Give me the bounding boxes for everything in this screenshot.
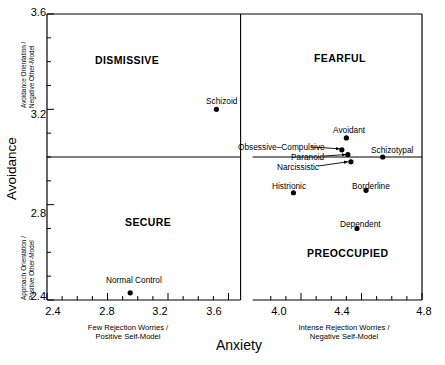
quadrant-label-secure: SECURE — [125, 216, 171, 228]
point-label-obsessive-compulsive: Obsessive–Compulsive — [238, 142, 325, 152]
y-axis-top-caption: Avoidance Orientation / Negative Other-M… — [20, 3, 35, 108]
y-axis-bottom-caption: Approach Orientation / Positive Other-Mo… — [20, 195, 35, 300]
point-label-histrionic: Histrionic — [272, 181, 306, 191]
y-tick-3.2: 3.2 — [20, 108, 46, 120]
data-point-normal-control — [128, 290, 133, 295]
x-axis-left-caption-line1: Few Rejection Worries / — [68, 323, 188, 332]
x-axis-right-caption: Intense Rejection Worries / Negative Sel… — [281, 323, 407, 342]
quadrant-label-preoccupied: PREOCCUPIED — [307, 247, 388, 259]
x-tick-2.4: 2.4 — [36, 305, 70, 317]
x-tick-3.2: 3.2 — [143, 305, 177, 317]
x-axis-title: Anxiety — [216, 337, 262, 353]
data-point-avoidant — [344, 135, 349, 140]
y-axis-bottom-caption-line1: Approach Orientation / — [20, 195, 28, 300]
data-point-narcissistic — [348, 159, 353, 164]
point-label-schizoid: Schizoid — [206, 96, 237, 106]
point-label-schizotypal: Schizotypal — [371, 145, 413, 155]
data-point-schizotypal — [380, 154, 385, 159]
y-axis-top-caption-line2: Negative Other-Model — [28, 3, 36, 108]
x-tick-4.0: 4.0 — [262, 305, 296, 317]
x-tick-2.8: 2.8 — [90, 305, 124, 317]
leader-line-paranoid-arrowhead — [342, 153, 346, 156]
y-axis-title: Avoidance — [4, 137, 19, 200]
point-label-avoidant: Avoidant — [333, 125, 365, 135]
point-label-dependent: Dependent — [340, 219, 381, 229]
data-point-obsessive-compulsive — [339, 147, 344, 152]
x-tick-4.4: 4.4 — [325, 305, 359, 317]
y-axis-bottom-caption-line2: Positive Other-Model — [28, 195, 36, 300]
y-axis-top-caption-line1: Avoidance Orientation / — [20, 3, 28, 108]
x-axis-left-caption-line2: Positive Self-Model — [68, 332, 188, 341]
x-axis-right-caption-line1: Intense Rejection Worries / — [281, 323, 407, 332]
point-label-normal-control: Normal Control — [106, 275, 162, 285]
point-label-narcissistic: Narcissistic — [277, 162, 319, 172]
data-point-schizoid — [214, 107, 219, 112]
data-point-paranoid — [345, 152, 350, 157]
quadrant-label-fearful: FEARFUL — [314, 52, 366, 64]
leader-line-narcissistic — [318, 162, 348, 166]
quadrant-label-dismissive: DISMISSIVE — [95, 54, 159, 66]
x-tick-4.8: 4.8 — [407, 305, 441, 317]
x-tick-3.6: 3.6 — [197, 305, 231, 317]
point-label-paranoid: Paranoid — [291, 152, 324, 162]
point-label-borderline: Borderline — [352, 181, 390, 191]
x-axis-right-caption-line2: Negative Self-Model — [281, 332, 407, 341]
scatter-plot-figure: 3.6 3.2 2.8 2.4 2.4 2.8 3.2 3.6 4.0 4.4 … — [0, 0, 445, 365]
x-axis-left-caption: Few Rejection Worries / Positive Self-Mo… — [68, 323, 188, 342]
